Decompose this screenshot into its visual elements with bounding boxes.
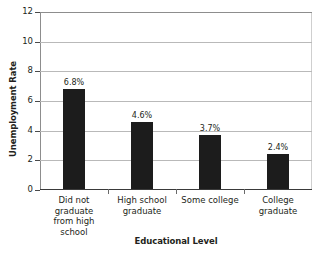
gridline [40, 12, 312, 13]
category-label-line: Some college [181, 195, 238, 205]
bar [267, 154, 289, 189]
y-tick-label: 6 [3, 96, 33, 105]
y-tick-label: 12 [3, 7, 33, 16]
bar [131, 122, 153, 189]
category-label-line: High school [117, 195, 167, 205]
bar [199, 135, 221, 189]
y-tick-label: 4 [3, 126, 33, 135]
bar-value-label: 2.4% [253, 143, 303, 152]
y-tick-label: 0 [3, 185, 33, 194]
y-tick-mark [35, 71, 40, 72]
category-label: High schoolgraduate [108, 195, 176, 216]
category-label: Did notgraduatefrom highschool [40, 195, 108, 237]
y-tick-label: 10 [3, 37, 33, 46]
category-label-line: graduate [55, 206, 94, 216]
x-axis-title: Educational Level [40, 236, 312, 246]
category-label-line: from high [53, 216, 94, 226]
gridline [40, 42, 312, 43]
y-tick-label: 8 [3, 66, 33, 75]
y-tick-label: 2 [3, 155, 33, 164]
bar [63, 89, 85, 189]
y-tick-mark [35, 12, 40, 13]
category-label-line: graduate [123, 206, 162, 216]
x-tick-mark [244, 189, 245, 194]
bar-chart: Unemployment Rate 6.8%4.6%3.7%2.4% 02468… [0, 0, 322, 255]
x-tick-mark [176, 189, 177, 194]
bar-value-label: 3.7% [185, 124, 235, 133]
gridline [40, 71, 312, 72]
category-label-line: College [262, 195, 294, 205]
bar-value-label: 6.8% [49, 78, 99, 87]
y-tick-mark [35, 190, 40, 191]
plot-area: 6.8%4.6%3.7%2.4% [40, 12, 312, 190]
category-label: Collegegraduate [244, 195, 312, 216]
category-label: Some college [176, 195, 244, 206]
category-label-line: graduate [259, 206, 298, 216]
y-tick-mark [35, 42, 40, 43]
y-tick-mark [35, 160, 40, 161]
y-tick-mark [35, 101, 40, 102]
category-label-line: Did not [59, 195, 90, 205]
category-label-line: school [60, 227, 87, 237]
bar-value-label: 4.6% [117, 111, 167, 120]
y-tick-mark [35, 131, 40, 132]
x-tick-mark [108, 189, 109, 194]
